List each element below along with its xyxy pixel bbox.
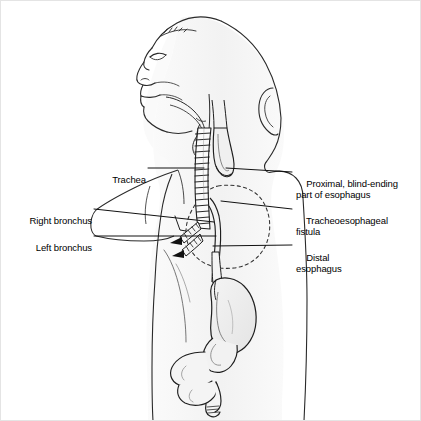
label-proximal-pouch-text: Proximal, blind-ending part of esophagus <box>296 178 398 201</box>
figure-container: Trachea Right bronchus Left bronchus Pro… <box>0 0 421 421</box>
label-trachea-text: Trachea <box>112 174 146 185</box>
label-left-bronchus: Left bronchus <box>8 230 92 265</box>
label-distal-esophagus: Distal esophagus <box>296 240 416 286</box>
label-right-bronchus-text: Right bronchus <box>30 215 93 226</box>
label-tracheoesophageal-fistula-text: Tracheoesophageal fistula <box>296 215 388 238</box>
label-left-bronchus-text: Left bronchus <box>36 242 92 253</box>
label-trachea: Trachea <box>60 162 146 197</box>
label-distal-esophagus-text: Distal esophagus <box>296 252 342 275</box>
